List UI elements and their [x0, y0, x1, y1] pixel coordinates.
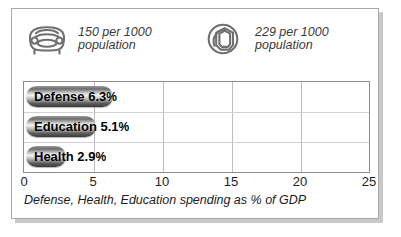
x-tick-0: 0: [20, 174, 27, 189]
bar-label-defense: Defense 6.3%: [34, 87, 117, 107]
bar-chart: Defense 6.3%Education 5.1%Health 2.9% 05…: [23, 81, 370, 211]
stat-telephones: 229 per 1000 population: [202, 19, 329, 59]
stat-cars: 150 per 1000 population: [25, 19, 152, 59]
bar-row-defense: Defense 6.3%: [24, 82, 369, 112]
x-tick-5: 5: [89, 174, 96, 189]
stat-cars-value: 150 per 1000 population: [78, 26, 152, 53]
x-tick-20: 20: [293, 174, 307, 189]
bar-label-education: Education 5.1%: [34, 117, 129, 137]
x-axis: 0510152025: [23, 173, 370, 191]
plot-area: Defense 6.3%Education 5.1%Health 2.9%: [23, 81, 370, 173]
panel-frame: 150 per 1000 population 229 per 1000 pop…: [11, 8, 379, 219]
x-tick-15: 15: [224, 174, 238, 189]
car-icon: [25, 19, 69, 59]
x-tick-10: 10: [155, 174, 169, 189]
bar-label-health: Health 2.9%: [34, 147, 106, 167]
statistics-row: 150 per 1000 population 229 per 1000 pop…: [12, 19, 378, 71]
chart-caption: Defense, Health, Education spending as %…: [24, 193, 306, 207]
x-tick-25: 25: [362, 174, 376, 189]
bar-row-education: Education 5.1%: [24, 112, 369, 142]
telephone-icon: [202, 19, 246, 59]
bar-row-health: Health 2.9%: [24, 142, 369, 172]
stat-telephones-value: 229 per 1000 population: [255, 26, 329, 53]
infographic-panel: 150 per 1000 population 229 per 1000 pop…: [0, 0, 401, 237]
